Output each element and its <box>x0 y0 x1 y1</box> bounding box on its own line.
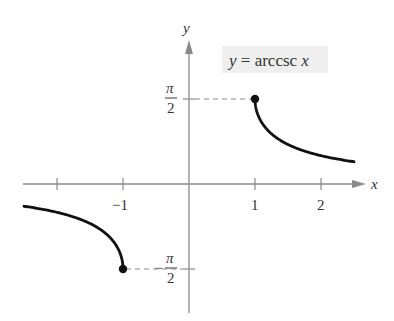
y-axis-arrow-icon <box>185 40 193 54</box>
curve-left-branch <box>24 206 123 269</box>
x-tick-label-neg1: −1 <box>112 197 128 213</box>
endpoint-dot-left <box>119 265 127 273</box>
y-tick-neg-pi-over-2-num: π <box>166 250 174 266</box>
x-tick-label-1: 1 <box>251 197 259 213</box>
y-tick-pi-over-2-den: 2 <box>167 100 175 116</box>
x-axis-arrow-icon <box>352 180 366 188</box>
x-axis: x <box>23 176 378 192</box>
y-axis-label: y <box>181 20 190 36</box>
x-tick-label-2: 2 <box>317 197 325 213</box>
x-ticks: −1 1 2 <box>57 178 325 213</box>
arccsc-graph: y = arccsc x x y −1 1 2 π 2 − π 2 <box>0 0 394 321</box>
y-tick-neg-pi-over-2-den: 2 <box>167 270 175 286</box>
y-tick-neg-pi-over-2-sign: − <box>154 260 162 276</box>
x-axis-label: x <box>370 176 378 192</box>
function-label: y = arccsc x <box>227 51 309 70</box>
endpoint-dot-right <box>251 95 259 103</box>
y-tick-pi-over-2-num: π <box>166 80 174 96</box>
curve-right-branch <box>255 99 354 162</box>
